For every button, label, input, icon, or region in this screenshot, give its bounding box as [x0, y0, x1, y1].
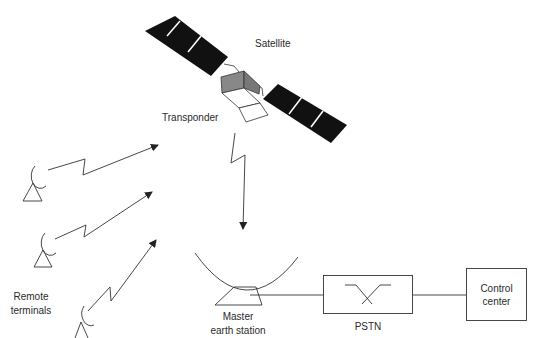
transponder-label: Transponder — [162, 112, 218, 124]
control-line1: Control — [466, 283, 527, 295]
master-earth-station-label: Master earth station — [203, 311, 273, 337]
diagram-canvas: Satellite Transponder Remote terminals M… — [0, 0, 537, 338]
transponder-icon — [221, 71, 268, 122]
pstn-box — [324, 276, 413, 314]
diagram-graphics — [0, 0, 537, 338]
remote-terminal-antenna-2 — [34, 233, 56, 267]
remote-terminals-line1: Remote — [6, 291, 56, 303]
remote-terminal-antenna-3 — [75, 306, 94, 338]
satellite-label: Satellite — [255, 38, 291, 50]
uplink-2 — [55, 192, 152, 239]
control-center-label: Control center — [466, 283, 527, 308]
solar-panel-left — [145, 16, 228, 76]
pstn-label: PSTN — [352, 321, 384, 333]
remote-terminals-line2: terminals — [6, 305, 56, 317]
uplink-1 — [48, 145, 158, 175]
uplink-3 — [88, 240, 156, 311]
master-line1: Master — [203, 311, 273, 323]
control-line2: center — [466, 296, 527, 308]
remote-terminal-antenna-1 — [23, 166, 46, 201]
master-dish-icon — [195, 253, 298, 305]
remote-terminals-label: Remote terminals — [6, 291, 56, 317]
master-line2: earth station — [203, 325, 273, 337]
downlink — [231, 133, 245, 229]
solar-panel-right — [263, 84, 347, 143]
